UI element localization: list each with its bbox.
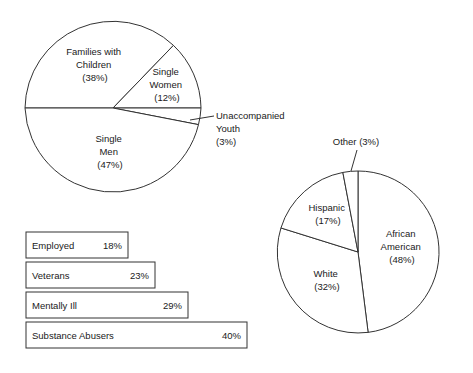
bar-row-veterans[interactable]: Veterans 23% (26, 262, 155, 288)
bar-label-employed: Employed (32, 240, 74, 251)
pie2-label-other: Other (3%) (333, 136, 379, 147)
bar-label-mentally-ill: Mentally Ill (32, 300, 77, 311)
bar-value-veterans: 23% (130, 270, 150, 281)
bar-row-substance-abusers[interactable]: Substance Abusers 40% (26, 322, 247, 348)
bar-value-mentally-ill: 29% (163, 300, 183, 311)
household-composition-pie: Families with Children (38%) Single Wome… (25, 21, 287, 192)
bar-label-substance-abusers: Substance Abusers (32, 330, 114, 341)
bar-value-substance-abusers: 40% (222, 330, 242, 341)
pie1-label-unaccompanied-youth: Unaccompanied Youth (3%) (216, 110, 287, 147)
race-ethnicity-pie: Other (3%) Hispanic (17%) White (32%) Af… (277, 136, 439, 333)
bar-label-veterans: Veterans (32, 270, 70, 281)
bar-characteristics-chart: Employed 18% Veterans 23% Mentally Ill 2… (26, 232, 247, 348)
charts-canvas: Families with Children (38%) Single Wome… (0, 0, 473, 373)
pie1-label-single-men: Single Men (47%) (95, 133, 124, 170)
pie1-label-single-women: Single Women (12%) (149, 66, 184, 103)
bar-value-employed: 18% (103, 240, 123, 251)
bar-row-employed[interactable]: Employed 18% (26, 232, 128, 258)
pie2-leader-other (351, 150, 357, 171)
figure-container: Families with Children (38%) Single Wome… (0, 0, 473, 373)
bar-row-mentally-ill[interactable]: Mentally Ill 29% (26, 292, 188, 318)
